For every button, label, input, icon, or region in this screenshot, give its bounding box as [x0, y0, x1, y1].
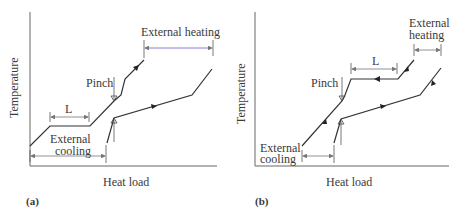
x-axis-label-a: Heat load [103, 175, 149, 189]
external-heating-label-a: External heating [141, 25, 220, 39]
cold-flow-arrow-b-2 [431, 80, 436, 86]
hot-flow-arrow-b-3 [322, 119, 327, 124]
y-axis-label-a: Temperature [7, 58, 21, 118]
external-heating-label-b-2: heating [409, 28, 444, 42]
external-cooling-label-b-2: cooling [260, 152, 296, 166]
panel-a: Temperature Heat load (a) Pinch L Extern… [7, 12, 220, 208]
panel-label-b: (b) [255, 195, 269, 208]
panel-label-a: (a) [26, 195, 39, 208]
cold-composite-curve-a [107, 69, 212, 143]
y-axis-label-b: Temperature [234, 64, 248, 124]
x-axis-label-b: Heat load [326, 175, 372, 189]
pinch-label-b: Pinch [311, 76, 338, 90]
composite-curves-figure: Temperature Heat load (a) Pinch L Extern… [0, 0, 459, 214]
panel-b: Temperature Heat load (b) Pinch L Extern… [234, 12, 450, 208]
cold-flow-arrow-a [151, 104, 157, 109]
cold-flow-arrow-b-1 [380, 104, 386, 109]
l-label-b: L [372, 54, 379, 68]
l-label-a: L [65, 102, 72, 116]
hot-flow-arrow-b-1 [374, 76, 380, 82]
pinch-label-a: Pinch [86, 76, 113, 90]
